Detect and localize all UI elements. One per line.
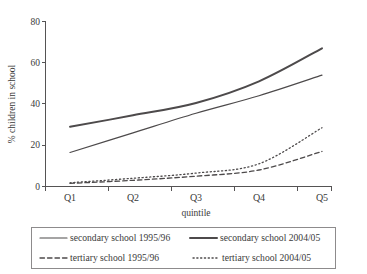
x-label-q3: Q3 — [190, 192, 202, 203]
legend-entry-tertiary-2004[interactable]: tertiary school 2004/05 — [193, 252, 311, 263]
y-tick-label-80: 80 — [31, 17, 41, 27]
x-label-q1: Q1 — [64, 192, 76, 203]
legend-entry-secondary-1995[interactable]: secondary school 1995/96 — [40, 232, 170, 243]
legend-label-secondary-1995: secondary school 1995/96 — [70, 232, 170, 243]
legend-entry-secondary-2004[interactable]: secondary school 2004/05 — [190, 232, 320, 243]
chart-figure: % children in school 80 60 40 20 0 — [0, 0, 367, 274]
x-label-q5: Q5 — [316, 192, 328, 203]
y-axis-ticks — [42, 22, 46, 187]
y-tick-label-20: 20 — [31, 140, 41, 150]
legend-label-secondary-2004: secondary school 2004/05 — [220, 232, 320, 243]
series-line-0 — [70, 75, 322, 152]
y-axis-title: % children in school — [7, 64, 17, 143]
line-chart: % children in school 80 60 40 20 0 — [0, 0, 367, 274]
x-label-q4: Q4 — [253, 192, 265, 203]
x-axis-category-labels: Q1 Q2 Q3 Q4 Q5 — [64, 192, 328, 203]
y-axis-tick-labels: 80 60 40 20 0 — [31, 17, 41, 192]
series-group — [70, 48, 322, 183]
x-label-q2: Q2 — [127, 192, 139, 203]
y-tick-label-0: 0 — [35, 182, 40, 192]
series-line-2 — [70, 151, 322, 183]
x-axis-title: quintile — [181, 208, 210, 218]
y-tick-label-60: 60 — [31, 58, 41, 68]
legend-label-tertiary-1995: tertiary school 1995/96 — [70, 252, 159, 263]
series-line-3 — [70, 128, 322, 183]
legend-label-tertiary-2004: tertiary school 2004/05 — [222, 252, 311, 263]
x-axis-ticks — [46, 187, 332, 192]
legend-entry-tertiary-1995[interactable]: tertiary school 1995/96 — [40, 252, 159, 263]
y-tick-label-40: 40 — [31, 99, 41, 109]
